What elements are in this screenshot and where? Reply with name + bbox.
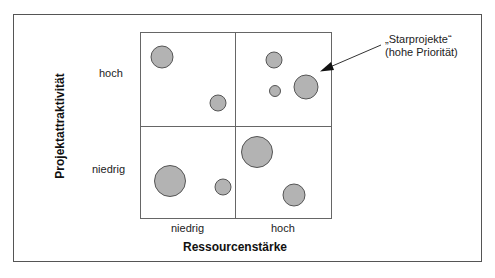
project-bubble [266,52,282,68]
annotation-subtitle: (hohe Priorität) [385,46,458,59]
project-bubble [294,75,318,99]
y-tick-high: hoch [99,67,123,79]
project-bubble [210,95,226,111]
y-tick-low: niedrig [92,163,125,175]
project-bubble [242,137,273,168]
x-tick-high: hoch [271,222,295,234]
x-axis-title: Ressourcenstärke [183,240,287,254]
starprojekte-annotation: „Starprojekte“ (hohe Priorität) [385,33,458,59]
project-bubble [215,179,231,195]
y-axis-title: Projektattraktivität [53,73,67,178]
project-bubble [283,184,305,206]
project-bubble [155,166,186,197]
project-bubble [270,86,281,97]
annotation-arrow [320,45,381,72]
project-bubble [151,46,173,68]
annotation-title: „Starprojekte“ [385,33,458,46]
x-tick-low: niedrig [171,222,204,234]
